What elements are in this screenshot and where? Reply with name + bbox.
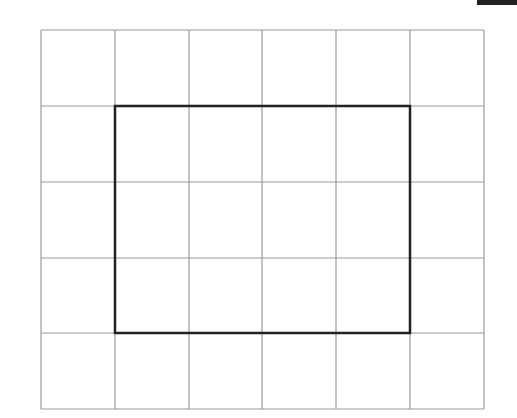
grid-diagram (0, 0, 517, 418)
grid-lines (41, 30, 484, 409)
